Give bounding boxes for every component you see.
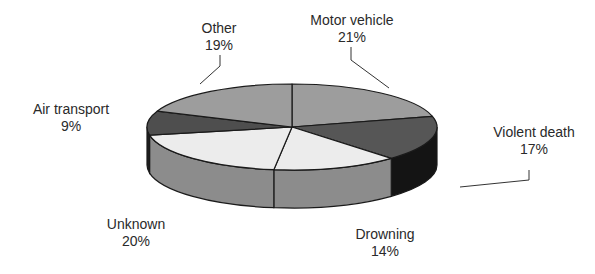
label-air-transport: Air transport 9%	[33, 101, 109, 135]
label-percent: 21%	[310, 29, 393, 46]
label-percent: 19%	[201, 37, 236, 54]
label-name: Unknown	[107, 216, 165, 233]
label-name: Drowning	[355, 226, 414, 243]
label-percent: 9%	[33, 118, 109, 135]
label-drowning: Drowning 14%	[355, 226, 414, 260]
label-violent-death: Violent death 17%	[493, 124, 574, 158]
leader-line	[460, 170, 529, 187]
label-percent: 20%	[107, 233, 165, 250]
pie-top-faces	[147, 84, 437, 170]
label-name: Other	[201, 20, 236, 37]
label-percent: 17%	[493, 141, 574, 158]
label-percent: 14%	[355, 243, 414, 260]
leader-line	[351, 47, 389, 88]
label-name: Air transport	[33, 101, 109, 118]
label-name: Violent death	[493, 124, 574, 141]
leader-line	[200, 55, 220, 84]
label-name: Motor vehicle	[310, 12, 393, 29]
label-motor-vehicle: Motor vehicle 21%	[310, 12, 393, 46]
label-unknown: Unknown 20%	[107, 216, 165, 250]
label-other: Other 19%	[201, 20, 236, 54]
